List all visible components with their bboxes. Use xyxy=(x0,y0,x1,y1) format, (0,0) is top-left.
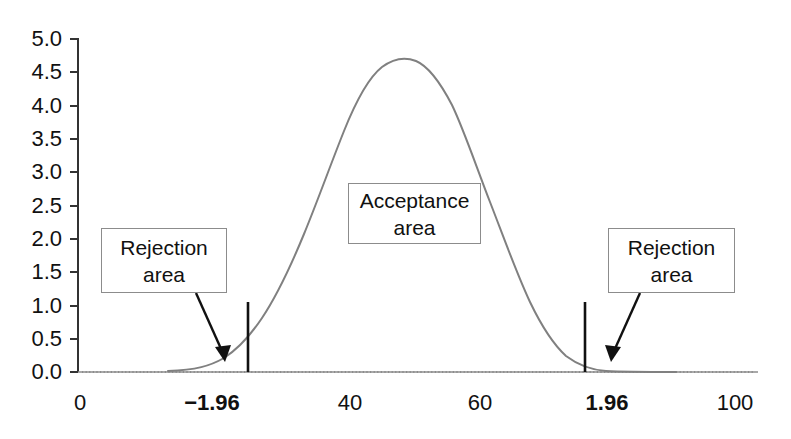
left-rejection-area-label-line2: area xyxy=(143,261,185,288)
y-tick-label-4-0: 4.0 xyxy=(8,95,62,117)
y-axis-ticks xyxy=(70,39,78,372)
x-tick-label-neg-1-96: −1.96 xyxy=(160,392,264,414)
y-tick-label-3-5: 3.5 xyxy=(8,128,62,150)
x-tick-label-60: 60 xyxy=(450,392,510,414)
x-tick-label-40: 40 xyxy=(320,392,380,414)
y-tick-label-1-0: 1.0 xyxy=(8,295,62,317)
acceptance-area-callout: Acceptance area xyxy=(348,183,481,244)
left-rejection-arrow xyxy=(196,293,231,362)
y-tick-label-1-5: 1.5 xyxy=(8,261,62,283)
acceptance-area-label-line2: area xyxy=(393,214,435,241)
x-tick-label-1-96: 1.96 xyxy=(563,392,651,414)
y-tick-label-0-0: 0.0 xyxy=(8,361,62,383)
left-rejection-area-label-line1: Rejection xyxy=(120,234,208,261)
normal-distribution-figure: 5.0 4.5 4.0 3.5 3.0 2.5 2.0 1.5 1.0 0.5 … xyxy=(0,0,791,439)
right-rejection-area-label-line2: area xyxy=(650,261,692,288)
y-tick-label-2-0: 2.0 xyxy=(8,228,62,250)
right-rejection-area-label-line1: Rejection xyxy=(628,234,716,261)
left-rejection-area-callout: Rejection area xyxy=(101,228,227,293)
y-tick-label-3-0: 3.0 xyxy=(8,161,62,183)
x-tick-label-100: 100 xyxy=(700,392,770,414)
x-tick-label-0: 0 xyxy=(50,392,110,414)
y-tick-label-2-5: 2.5 xyxy=(8,195,62,217)
right-rejection-arrow xyxy=(605,293,640,362)
y-tick-label-5-0: 5.0 xyxy=(8,28,62,50)
y-tick-label-4-5: 4.5 xyxy=(8,61,62,83)
right-rejection-area-callout: Rejection area xyxy=(608,228,735,293)
y-tick-label-0-5: 0.5 xyxy=(8,328,62,350)
acceptance-area-label-line1: Acceptance xyxy=(360,187,470,214)
